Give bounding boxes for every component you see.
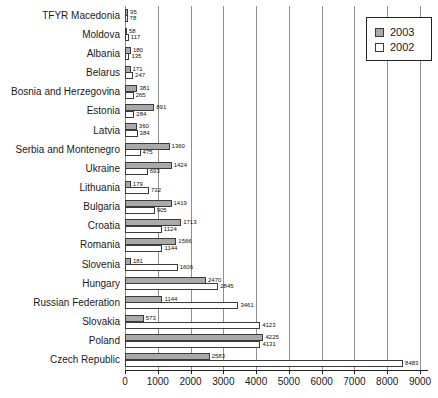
category-label: Bosnia and Herzegovina bbox=[0, 86, 120, 97]
bar-value-label: 265 bbox=[136, 92, 146, 99]
category-label: Slovenia bbox=[0, 259, 120, 270]
bar-2002 bbox=[125, 72, 133, 79]
legend: 2003 2002 bbox=[366, 17, 432, 61]
bar-value-label: 247 bbox=[135, 72, 145, 79]
bar-value-label: 135 bbox=[131, 53, 141, 60]
bar-2002 bbox=[125, 15, 128, 22]
bar-value-label: 1424 bbox=[174, 162, 187, 169]
bar-value-label: 1566 bbox=[178, 238, 191, 245]
bar-2002 bbox=[125, 245, 162, 252]
category-label: Ukraine bbox=[0, 163, 120, 174]
bar-value-label: 693 bbox=[150, 168, 160, 175]
legend-swatch-2003-icon bbox=[375, 28, 384, 37]
bar-value-label: 1419 bbox=[174, 200, 187, 207]
legend-label-2003: 2003 bbox=[390, 26, 414, 38]
bar-value-label: 1144 bbox=[164, 245, 177, 252]
bar-value-label: 4131 bbox=[262, 341, 275, 348]
axis-tick-label: 9000 bbox=[405, 376, 435, 387]
bar-value-label: 1606 bbox=[180, 264, 193, 271]
bar-value-label: 905 bbox=[157, 207, 167, 214]
bar-2002 bbox=[125, 322, 260, 329]
category-label: Moldova bbox=[0, 29, 120, 40]
legend-item-2003: 2003 bbox=[375, 26, 431, 38]
bar-value-label: 891 bbox=[156, 104, 166, 111]
category-label: Romania bbox=[0, 239, 120, 250]
bar-value-label: 732 bbox=[151, 187, 161, 194]
bar-2002 bbox=[125, 226, 162, 233]
bar-value-label: 78 bbox=[130, 15, 137, 22]
category-label: Estonia bbox=[0, 105, 120, 116]
bar-value-label: 2845 bbox=[220, 283, 233, 290]
legend-item-2002: 2002 bbox=[375, 41, 431, 53]
gridline bbox=[354, 6, 355, 370]
category-label: Bulgaria bbox=[0, 201, 120, 212]
category-label: Lithuania bbox=[0, 182, 120, 193]
bar-value-label: 1713 bbox=[183, 219, 196, 226]
category-label: Czech Republic bbox=[0, 354, 120, 365]
category-label: Poland bbox=[0, 335, 120, 346]
category-label: Hungary bbox=[0, 278, 120, 289]
legend-label-2002: 2002 bbox=[390, 41, 414, 53]
legend-swatch-2002-icon bbox=[375, 43, 384, 52]
gridline bbox=[223, 6, 224, 370]
bar-2002 bbox=[125, 130, 138, 137]
gridline bbox=[256, 6, 257, 370]
bar-2002 bbox=[125, 168, 148, 175]
bar-2002 bbox=[125, 111, 134, 118]
category-label: Russian Federation bbox=[0, 297, 120, 308]
category-label: Albania bbox=[0, 48, 120, 59]
bar-chart: 2003 2002 010002000300040005000600070008… bbox=[0, 0, 438, 398]
bar-2002 bbox=[125, 264, 178, 271]
axis-tick-label: 6000 bbox=[307, 376, 337, 387]
bar-value-label: 1360 bbox=[172, 143, 185, 150]
category-label: Serbia and Montenegro bbox=[0, 144, 120, 155]
bar-2002 bbox=[125, 53, 129, 60]
category-label: TFYR Macedonia bbox=[0, 10, 120, 21]
bar-value-label: 4123 bbox=[262, 322, 275, 329]
bar-2002 bbox=[125, 302, 238, 309]
axis-tick-label: 8000 bbox=[372, 376, 402, 387]
bar-2002 bbox=[125, 283, 218, 290]
axis-tick-label: 2000 bbox=[176, 376, 206, 387]
category-label: Slovakia bbox=[0, 316, 120, 327]
bar-2002 bbox=[125, 341, 260, 348]
category-label: Latvia bbox=[0, 125, 120, 136]
axis-tick-label: 5000 bbox=[274, 376, 304, 387]
bar-value-label: 475 bbox=[143, 149, 153, 156]
bar-2002 bbox=[125, 149, 141, 156]
axis-tick-label: 4000 bbox=[241, 376, 271, 387]
bar-2002 bbox=[125, 34, 129, 41]
bar-2002 bbox=[125, 207, 155, 214]
category-label: Belarus bbox=[0, 67, 120, 78]
axis-tick-label: 7000 bbox=[339, 376, 369, 387]
bar-value-label: 117 bbox=[131, 34, 141, 41]
axis-tick-label: 1000 bbox=[143, 376, 173, 387]
bar-value-label: 8483 bbox=[405, 360, 418, 367]
bar-value-label: 384 bbox=[140, 130, 150, 137]
bar-value-label: 284 bbox=[136, 111, 146, 118]
axis-tick-label: 0 bbox=[110, 376, 140, 387]
gridline bbox=[322, 6, 323, 370]
bar-2002 bbox=[125, 187, 149, 194]
bar-2002 bbox=[125, 360, 403, 367]
category-label: Croatia bbox=[0, 220, 120, 231]
bar-value-label: 1124 bbox=[164, 226, 177, 233]
bar-2002 bbox=[125, 92, 134, 99]
bar-value-label: 3461 bbox=[240, 302, 253, 309]
axis-tick-label: 3000 bbox=[208, 376, 238, 387]
gridline bbox=[289, 6, 290, 370]
x-axis-line bbox=[125, 370, 428, 371]
gridline bbox=[191, 6, 192, 370]
